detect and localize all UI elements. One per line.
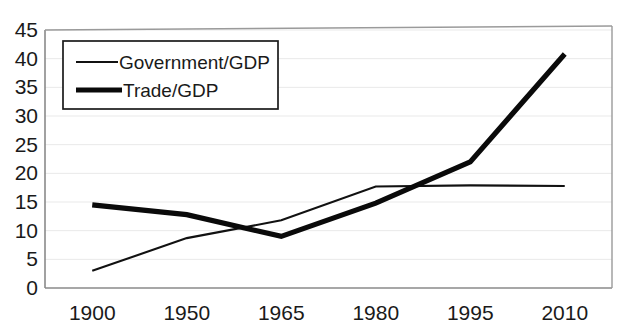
y-axis-tick-label: 0 — [26, 276, 38, 299]
y-axis-tick-label: 5 — [26, 247, 38, 270]
y-axis-tick-label: 10 — [15, 219, 38, 242]
x-axis-tick-label: 2010 — [541, 301, 588, 324]
y-axis-tick-label: 20 — [15, 161, 38, 184]
y-axis-tick-label: 25 — [15, 133, 38, 156]
y-axis-tick-label: 15 — [15, 190, 38, 213]
y-axis-tick-label: 35 — [15, 75, 38, 98]
x-axis-tick-label: 1950 — [163, 301, 210, 324]
plot-top-border — [45, 26, 612, 30]
chart-container: 051015202530354045 190019501965198019952… — [0, 0, 638, 334]
y-axis-tick-label: 40 — [15, 47, 38, 70]
legend-label-trade-gdp: Trade/GDP — [123, 80, 218, 101]
y-axis-tick-labels: 051015202530354045 — [15, 18, 38, 299]
x-axis-tick-labels: 190019501965198019952010 — [69, 301, 588, 324]
y-axis-tick-label: 30 — [15, 104, 38, 127]
line-chart: 051015202530354045 190019501965198019952… — [0, 0, 638, 334]
legend-label-government-gdp: Government/GDP — [119, 52, 270, 73]
y-axis-tick-label: 45 — [15, 18, 38, 41]
x-axis-tick-label: 1980 — [352, 301, 399, 324]
chart-legend: Government/GDP Trade/GDP — [63, 41, 278, 109]
x-axis-tick-label: 1995 — [447, 301, 494, 324]
x-axis-tick-label: 1900 — [69, 301, 116, 324]
series-line-government-gdp — [92, 185, 565, 270]
x-axis-tick-label: 1965 — [258, 301, 305, 324]
